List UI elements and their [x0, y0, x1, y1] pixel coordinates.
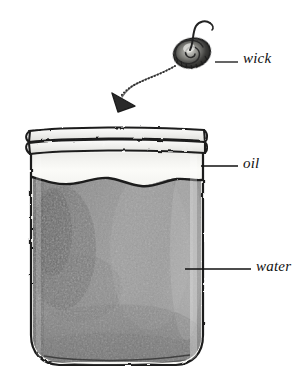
jar-glass	[26, 127, 208, 370]
oil-lamp-diagram: wick oil water	[0, 0, 307, 384]
label-wick: wick	[243, 50, 271, 67]
jar-rim	[26, 127, 207, 154]
label-oil: oil	[243, 155, 259, 172]
placement-arrow	[112, 66, 175, 112]
water-layer	[28, 160, 208, 370]
label-water: water	[256, 258, 291, 275]
wick-coil	[171, 21, 214, 71]
